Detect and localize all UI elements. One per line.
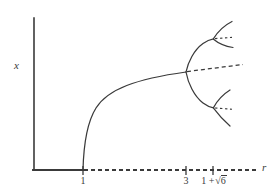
two-cycle-upper-branch [186, 39, 214, 72]
bifurcation-diagram-figure: x r 1 3 1 +√6 [0, 0, 280, 194]
four-cycle-branch-lower-b [214, 108, 231, 126]
two-cycle-lower-unstable-stub [215, 108, 232, 109]
radicand-value: 6 [221, 175, 227, 187]
four-cycle-branch-lower-a [214, 90, 231, 108]
tick-label-1: 1 [73, 176, 93, 186]
fixed-point-unstable-branch [187, 65, 243, 72]
diagram-canvas [0, 0, 280, 194]
two-cycle-upper-unstable-stub [215, 37, 232, 38]
y-axis-label: x [14, 60, 19, 71]
two-cycle-lower-branch [186, 72, 214, 108]
four-cycle-branch-upper-a [214, 22, 233, 39]
tick-sqrt-prefix: 1 + [201, 175, 214, 186]
four-cycle-branch-upper-b [214, 39, 234, 47]
x-axis-label: r [262, 162, 266, 173]
fixed-point-stable-branch [83, 72, 186, 170]
radical-sign: √6 [214, 175, 227, 187]
tick-label-one-plus-sqrt-six: 1 +√6 [192, 175, 236, 187]
